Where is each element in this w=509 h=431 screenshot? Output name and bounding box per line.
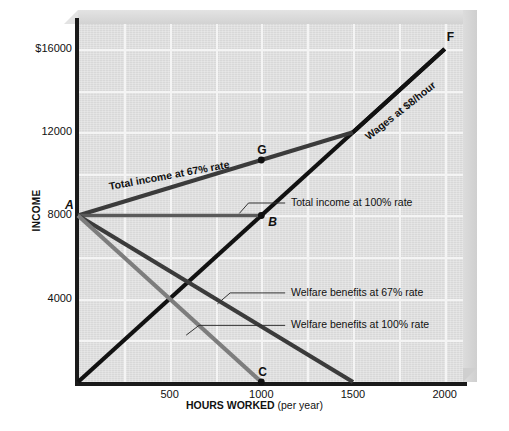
y-tick-label: 4000 bbox=[48, 292, 72, 304]
x-axis-title-main: HOURS WORKED bbox=[186, 399, 275, 411]
x-axis-title: HOURS WORKED (per year) bbox=[0, 399, 509, 411]
series-layer bbox=[0, 0, 509, 431]
y-tick-label: $16000 bbox=[35, 42, 72, 54]
callout-label: Welfare benefits at 100% rate bbox=[291, 318, 429, 330]
point-label-c: C bbox=[258, 365, 267, 379]
y-tick-label: 12000 bbox=[41, 125, 72, 137]
point-label-b: B bbox=[268, 215, 277, 229]
callout-leader-line bbox=[217, 293, 285, 304]
y-axis-title: INCOME bbox=[31, 171, 42, 251]
data-point-marker bbox=[258, 157, 265, 164]
data-point-marker bbox=[258, 379, 265, 386]
callout-label: Welfare benefits at 67% rate bbox=[291, 286, 423, 298]
chart-figure: $160001200080004000 500100015002000 ABCF… bbox=[0, 0, 509, 431]
point-label-f: F bbox=[447, 30, 454, 44]
series-line bbox=[78, 215, 353, 382]
point-label-g: G bbox=[257, 143, 266, 157]
x-axis-title-sub: (per year) bbox=[278, 399, 324, 411]
callout-label: Total income at 100% rate bbox=[291, 196, 412, 208]
data-point-marker bbox=[258, 212, 265, 219]
point-label-a: A bbox=[65, 198, 74, 212]
